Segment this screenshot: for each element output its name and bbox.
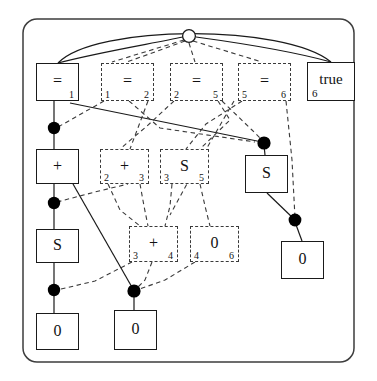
- node-subscript-right: 3: [139, 173, 144, 183]
- node-symbol: true: [308, 71, 354, 86]
- node-symbol: +: [130, 235, 177, 251]
- node-symbol: +: [101, 157, 148, 173]
- graph-node-sR[interactable]: S: [245, 155, 288, 193]
- junction-dot: [48, 284, 60, 296]
- graph-node-zeroC[interactable]: 0: [114, 310, 157, 350]
- graph-node-sL[interactable]: S: [36, 229, 79, 263]
- figure-canvas: =1=12=25=56true6++23S35SS+34046000: [0, 0, 377, 381]
- edge-eq56-s35: [186, 101, 242, 149]
- edge-eq25-plus23: [120, 101, 174, 149]
- edge-eq12-plus23: [130, 101, 148, 149]
- node-subscript-right: 5: [213, 90, 218, 100]
- node-subscript-right: 4: [168, 251, 173, 261]
- node-symbol: S: [37, 237, 78, 253]
- node-symbol: =: [171, 73, 222, 89]
- edge-cross-a: [129, 101, 255, 142]
- node-subscript-left: 2: [104, 173, 109, 183]
- graph-node-zeroL[interactable]: 0: [36, 313, 79, 350]
- edge-sR-d6: [267, 193, 294, 219]
- graph-node-eq56[interactable]: =56: [238, 63, 291, 101]
- junction-dot: [48, 122, 60, 134]
- edge-s35-zero46: [200, 184, 210, 226]
- junction-dot: [257, 136, 270, 149]
- graph-node-plus34[interactable]: +34: [129, 226, 178, 262]
- node-symbol: =: [239, 73, 290, 89]
- graph-node-eq12[interactable]: =12: [101, 63, 154, 101]
- graph-node-s35[interactable]: S35: [160, 149, 209, 184]
- node-subscript-left: 2: [174, 90, 179, 100]
- edge-plus23-plus34: [108, 184, 140, 226]
- graph-node-plus23[interactable]: +23: [100, 149, 149, 184]
- edge-plusL-d4: [73, 184, 133, 289]
- node-subscript-right: 1: [69, 90, 74, 100]
- edge-root-to-eq25: [189, 43, 195, 62]
- node-symbol: =: [102, 73, 153, 89]
- node-subscript-left: 6: [312, 88, 318, 99]
- node-symbol: S: [161, 157, 208, 173]
- edge-plus23-down: [140, 184, 148, 226]
- graph-node-true6[interactable]: true6: [307, 62, 355, 101]
- junction-dot: [48, 197, 60, 209]
- graph-node-zero46[interactable]: 046: [190, 226, 239, 262]
- edge-plus34-d3: [57, 262, 132, 290]
- edge-root-to-eq12: [127, 41, 185, 62]
- graph-node-plusL[interactable]: +: [36, 149, 79, 184]
- junction-dot: [127, 284, 140, 297]
- node-symbol: +: [37, 157, 78, 173]
- node-symbol: S: [246, 165, 287, 181]
- node-subscript-left: 5: [242, 90, 247, 100]
- node-subscript-right: 6: [229, 251, 234, 261]
- graph-node-eq1[interactable]: =1: [36, 63, 79, 101]
- node-subscript-left: 4: [194, 251, 199, 261]
- edge-d2-plus23: [57, 184, 128, 202]
- node-symbol: =: [37, 73, 78, 89]
- edge-s35-plus34: [165, 184, 172, 226]
- edge-root-to-true: [196, 37, 331, 62]
- node-subscript-right: 2: [144, 90, 149, 100]
- node-subscript-left: 1: [105, 90, 110, 100]
- node-subscript-right: 6: [281, 90, 286, 100]
- graph-node-zeroR[interactable]: 0: [281, 241, 324, 279]
- node-subscript-right: 5: [199, 173, 204, 183]
- node-subscript-left: 3: [133, 251, 138, 261]
- edge-root-to-eq56: [193, 41, 262, 62]
- edge-cross-b: [222, 101, 262, 140]
- junction-dot: [289, 214, 302, 227]
- node-symbol: 0: [115, 321, 156, 337]
- node-subscript-left: 3: [164, 173, 169, 183]
- graph-node-eq25[interactable]: =25: [170, 63, 223, 101]
- node-symbol: 0: [191, 235, 238, 251]
- node-symbol: 0: [282, 251, 323, 267]
- node-symbol: 0: [37, 322, 78, 338]
- edge-zero46-d4: [137, 262, 195, 290]
- root-node-circle[interactable]: [183, 30, 196, 43]
